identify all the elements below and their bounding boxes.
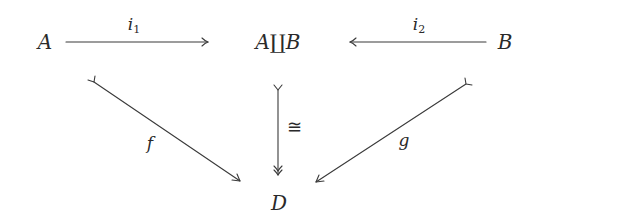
label-i1: i1 — [128, 16, 140, 35]
arrow-i2 — [350, 38, 486, 46]
arrow-iso — [274, 85, 282, 175]
object-B: B — [498, 32, 513, 52]
label-g: g — [399, 132, 410, 149]
object-coproduct-AB: A∐B — [255, 32, 300, 52]
arrow-g — [316, 78, 472, 182]
label-i1-sub: 1 — [133, 23, 140, 36]
arrow-i1 — [66, 38, 208, 46]
arrow-f — [88, 76, 240, 181]
commutative-diagram: A A∐B B D i1 i2 f g ≅ — [0, 0, 621, 223]
diagram-arrows — [0, 0, 621, 223]
object-D: D — [271, 193, 287, 213]
label-isomorphism: ≅ — [287, 118, 302, 136]
label-f: f — [147, 135, 153, 152]
object-A: A — [38, 32, 52, 52]
label-i2-sub: 2 — [418, 23, 425, 36]
label-i2: i2 — [413, 16, 425, 35]
